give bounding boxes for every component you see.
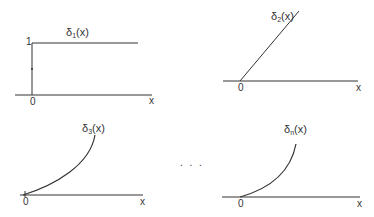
function-label-1: δ1(x)	[66, 27, 89, 38]
argument: (x)	[281, 10, 294, 22]
x-axis-label-3: x	[140, 197, 145, 207]
argument: (x)	[76, 26, 89, 38]
convex-curve	[23, 135, 95, 195]
function-label-4: δn(x)	[284, 124, 307, 135]
argument: (x)	[92, 122, 105, 134]
panel-4	[222, 144, 360, 197]
panel-1	[15, 43, 152, 95]
y-tick-label: 1	[26, 37, 32, 47]
x-axis-label-1: x	[149, 96, 154, 106]
subscript: 1	[72, 32, 76, 39]
subscript: 2	[277, 16, 281, 23]
midpoint-dot	[31, 68, 33, 70]
ellipsis: . . .	[180, 158, 204, 168]
function-label-3: δ3(x)	[82, 123, 105, 134]
panel-3	[20, 135, 143, 197]
x-axis-label-2: x	[356, 83, 361, 93]
origin-label-1: 0	[30, 97, 36, 107]
origin-label-3: 0	[23, 197, 29, 207]
subscript: n	[290, 129, 294, 136]
function-label-2: δ2(x)	[271, 11, 294, 22]
subscript: 3	[88, 128, 92, 135]
origin-label-2: 0	[238, 83, 244, 93]
convex-curve	[240, 144, 296, 197]
origin-label-4: 0	[238, 199, 244, 209]
argument: (x)	[294, 123, 307, 135]
diagram-canvas	[0, 0, 374, 217]
x-axis-label-4: x	[357, 199, 362, 209]
